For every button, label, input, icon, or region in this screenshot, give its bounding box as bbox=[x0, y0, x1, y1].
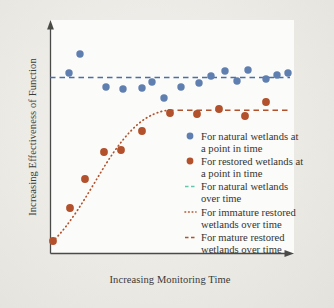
data-point bbox=[49, 237, 57, 245]
data-point bbox=[76, 50, 83, 57]
legend-marker-dot-red bbox=[187, 158, 194, 165]
data-point bbox=[119, 85, 126, 92]
x-axis-title: Increasing Monitoring Time bbox=[109, 274, 230, 285]
data-point bbox=[193, 110, 201, 118]
legend-label-line2: wetlands over time bbox=[201, 244, 282, 255]
data-point bbox=[117, 146, 125, 154]
legend-label-line1: For immature restored bbox=[201, 207, 296, 218]
legend-label-line1: For natural wetlands at bbox=[201, 131, 298, 142]
legend-label-line1: For restored wetlands at bbox=[201, 156, 303, 167]
data-point bbox=[221, 67, 228, 74]
legend-item-mature-trend: For mature restored wetlands over time bbox=[185, 232, 285, 255]
data-point bbox=[215, 105, 223, 113]
data-point bbox=[233, 77, 240, 84]
data-point bbox=[138, 127, 146, 135]
data-point bbox=[262, 98, 270, 106]
data-point bbox=[100, 148, 108, 156]
data-point bbox=[102, 83, 109, 90]
data-point bbox=[148, 78, 155, 85]
data-point bbox=[241, 112, 249, 120]
data-point bbox=[284, 69, 291, 76]
data-point bbox=[160, 94, 167, 101]
legend-label-line1: For mature restored bbox=[201, 232, 285, 243]
data-point bbox=[273, 71, 280, 78]
data-point bbox=[81, 175, 89, 183]
legend-label-line2: over time bbox=[201, 193, 242, 204]
data-point bbox=[177, 83, 184, 90]
data-point bbox=[244, 66, 251, 73]
wetland-effectiveness-scatter-chart: Increasing Effectiveness of Function Inc… bbox=[0, 0, 334, 308]
chart-figure: Increasing Effectiveness of Function Inc… bbox=[0, 0, 334, 308]
plot-wrapper: Increasing Effectiveness of Function Inc… bbox=[0, 0, 334, 308]
legend-item-immature-trend: For immature restored wetlands over time bbox=[185, 207, 296, 230]
legend-label-line2: wetlands over time bbox=[201, 219, 282, 230]
legend-label-line1: For natural wetlands bbox=[201, 181, 288, 192]
data-point bbox=[66, 204, 74, 212]
legend-marker-dot-blue bbox=[187, 133, 194, 140]
legend-label-line2: a point in time bbox=[201, 168, 263, 179]
legend-label-line2: a point in time bbox=[201, 143, 263, 154]
y-axis-title: Increasing Effectiveness of Function bbox=[27, 58, 38, 216]
data-point bbox=[262, 75, 269, 82]
data-point bbox=[207, 72, 214, 79]
data-point bbox=[195, 79, 202, 86]
data-point bbox=[138, 84, 145, 91]
data-point bbox=[65, 69, 72, 76]
data-point bbox=[166, 109, 174, 117]
